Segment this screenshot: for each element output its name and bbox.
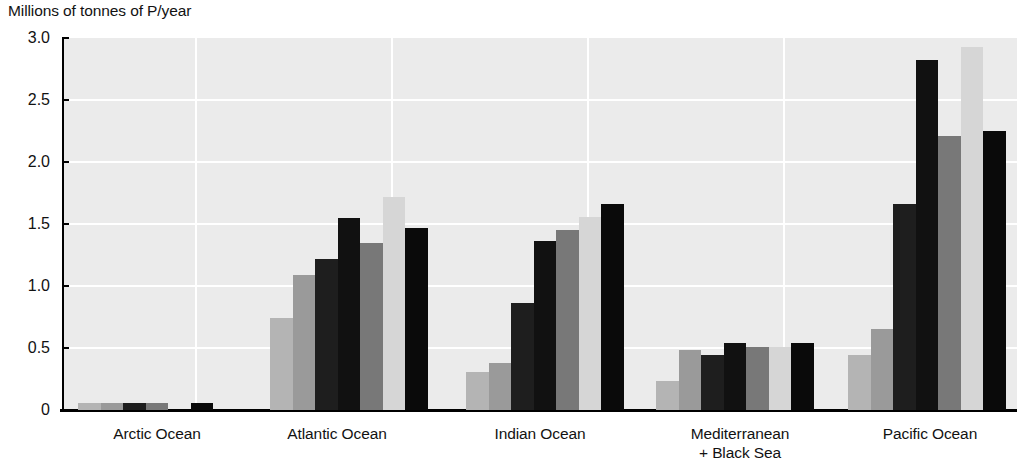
bar xyxy=(466,372,489,410)
y-tick-mark xyxy=(62,161,69,163)
gridline-horizontal xyxy=(64,223,1017,225)
y-tick-label: 2.0 xyxy=(2,154,50,170)
bar xyxy=(360,243,383,410)
bar xyxy=(791,343,814,410)
bar xyxy=(405,228,428,410)
category-label: Indian Ocean xyxy=(430,424,650,443)
y-tick-label: 3.0 xyxy=(2,30,50,46)
bar xyxy=(489,363,512,410)
y-tick-label: 0.5 xyxy=(2,340,50,356)
category-label-line: Indian Ocean xyxy=(430,424,650,443)
y-axis-unit-title: Millions of tonnes of P/year xyxy=(8,2,191,20)
bar xyxy=(848,355,871,410)
category-label: Atlantic Ocean xyxy=(227,424,447,443)
gridline-vertical xyxy=(195,38,197,410)
y-tick-label: 1.0 xyxy=(2,278,50,294)
bar xyxy=(961,47,984,410)
category-label: Mediterranean+ Black Sea xyxy=(630,424,850,462)
bar xyxy=(579,217,602,410)
bar xyxy=(983,131,1006,410)
bar xyxy=(338,218,361,410)
y-tick-label: 1.5 xyxy=(2,216,50,232)
y-tick-mark xyxy=(62,223,69,225)
bar xyxy=(871,329,894,410)
category-label-line: Mediterranean xyxy=(630,424,850,443)
bar xyxy=(383,197,406,410)
bar xyxy=(601,204,624,410)
bar xyxy=(534,241,557,410)
bar xyxy=(78,403,101,410)
bar xyxy=(701,355,724,410)
bar xyxy=(746,347,769,410)
gridline-horizontal xyxy=(64,161,1017,163)
y-tick-label: 0 xyxy=(2,402,50,418)
category-label-line: + Black Sea xyxy=(630,443,850,462)
bar xyxy=(769,347,792,410)
y-tick-mark xyxy=(62,285,69,287)
bar xyxy=(146,403,169,410)
y-tick-mark xyxy=(62,37,69,39)
bar xyxy=(101,403,124,410)
bar xyxy=(191,403,214,410)
category-label: Pacific Ocean xyxy=(820,424,1023,443)
category-label-line: Pacific Ocean xyxy=(820,424,1023,443)
bar xyxy=(270,318,293,410)
gridline-horizontal xyxy=(64,99,1017,101)
y-tick-mark xyxy=(62,347,69,349)
bar xyxy=(938,136,961,410)
bar xyxy=(556,230,579,410)
bar xyxy=(916,60,939,410)
bar xyxy=(656,381,679,410)
bar xyxy=(724,343,747,410)
bar xyxy=(293,275,316,410)
category-label-line: Atlantic Ocean xyxy=(227,424,447,443)
bar xyxy=(511,303,534,410)
bar xyxy=(893,204,916,410)
y-tick-label: 2.5 xyxy=(2,92,50,108)
y-tick-mark xyxy=(62,99,69,101)
bar xyxy=(123,403,146,410)
bar-chart: Millions of tonnes of P/year 00.51.01.52… xyxy=(0,0,1023,472)
bar xyxy=(679,350,702,410)
bar xyxy=(315,259,338,410)
